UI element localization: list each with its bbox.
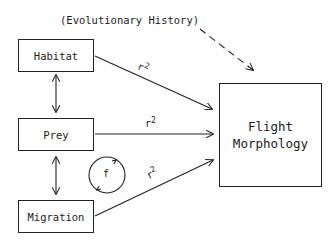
node-target-line1: Flight: [248, 118, 293, 135]
edge-evolutionary-history: [200, 29, 253, 70]
node-target-line2: Morphology: [233, 135, 308, 152]
node-migration: Migration: [18, 200, 94, 233]
node-habitat-label: Habitat: [34, 50, 78, 62]
r2-label-prey: r2: [145, 116, 156, 129]
edge-habitat-to-morphology: [95, 56, 212, 109]
node-prey-label: Prey: [43, 129, 68, 141]
exponent: 2: [151, 116, 156, 125]
node-migration-label: Migration: [28, 211, 85, 223]
evolutionary-history-label: (Evolutionary History): [60, 14, 199, 26]
feedback-label: f: [103, 168, 109, 179]
node-flight-morphology: Flight Morphology: [219, 83, 322, 187]
node-habitat: Habitat: [18, 39, 94, 72]
node-prey: Prey: [18, 118, 94, 151]
